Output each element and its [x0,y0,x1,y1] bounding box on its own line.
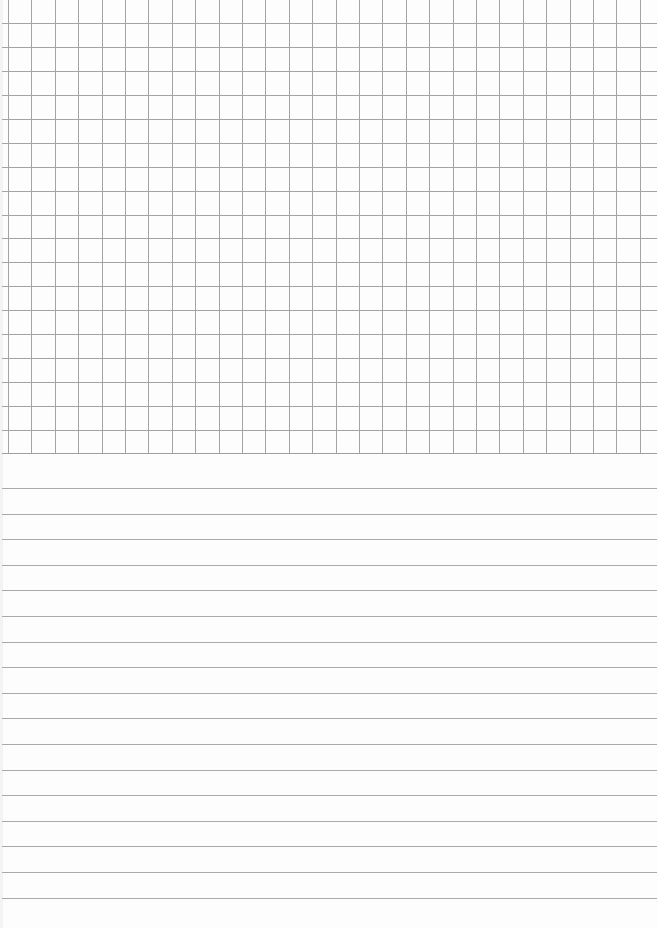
grid-vertical-line [195,0,196,454]
grid-vertical-line [523,0,524,454]
grid-vertical-line [55,0,56,454]
grid-bottom-border [2,453,657,454]
ruled-line [2,667,657,668]
ruled-line [2,718,657,719]
notebook-page [0,0,658,928]
ruled-line [2,539,657,540]
grid-horizontal-line [2,358,657,359]
grid-horizontal-line [2,334,657,335]
ruled-line [2,898,657,899]
ruled-line [2,488,657,489]
ruled-line [2,744,657,745]
grid-vertical-line [429,0,430,454]
grid-vertical-line [31,0,32,454]
grid-horizontal-line [2,23,657,24]
grid-horizontal-line [2,215,657,216]
ruled-line [2,872,657,873]
grid-vertical-line [616,0,617,454]
grid-horizontal-line [2,47,657,48]
graph-grid-section [0,0,658,455]
grid-vertical-line [640,0,641,454]
grid-horizontal-line [2,382,657,383]
grid-horizontal-line [2,286,657,287]
grid-vertical-line [546,0,547,454]
grid-horizontal-line [2,71,657,72]
ruled-line [2,693,657,694]
grid-horizontal-line [2,167,657,168]
ruled-line [2,565,657,566]
grid-horizontal-line [2,406,657,407]
grid-vertical-line [312,0,313,454]
ruled-line [2,514,657,515]
grid-vertical-line [219,0,220,454]
ruled-lines-section [0,455,658,928]
ruled-line [2,795,657,796]
grid-vertical-line [570,0,571,454]
grid-horizontal-line [2,119,657,120]
ruled-line [2,846,657,847]
grid-vertical-line [265,0,266,454]
grid-vertical-line [476,0,477,454]
grid-horizontal-line [2,238,657,239]
grid-horizontal-line [2,430,657,431]
grid-horizontal-line [2,95,657,96]
ruled-line [2,821,657,822]
ruled-line [2,590,657,591]
grid-vertical-line [289,0,290,454]
grid-vertical-line [102,0,103,454]
grid-vertical-line [453,0,454,454]
ruled-line [2,770,657,771]
grid-horizontal-line [2,262,657,263]
grid-vertical-line [593,0,594,454]
grid-vertical-line [336,0,337,454]
grid-vertical-line [406,0,407,454]
grid-vertical-line [172,0,173,454]
grid-horizontal-line [2,143,657,144]
grid-vertical-line [359,0,360,454]
grid-vertical-line [242,0,243,454]
grid-vertical-line [148,0,149,454]
ruled-line [2,642,657,643]
grid-vertical-line [499,0,500,454]
ruled-line [2,616,657,617]
grid-vertical-line [78,0,79,454]
grid-vertical-line [125,0,126,454]
grid-vertical-line [8,0,9,454]
grid-horizontal-line [2,191,657,192]
grid-horizontal-line [2,310,657,311]
grid-vertical-line [382,0,383,454]
